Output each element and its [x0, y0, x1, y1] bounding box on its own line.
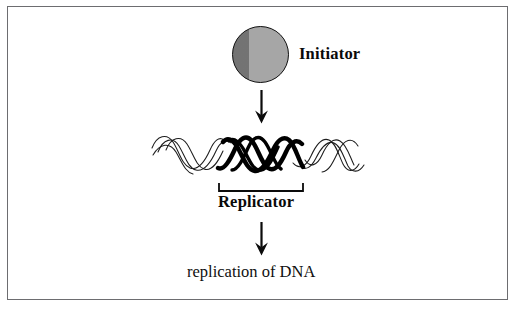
replicator-span-bracket-icon	[219, 183, 303, 191]
arrow-bottom-down-icon	[255, 222, 268, 256]
figure-root: Initiator Replicator replication of DNA	[0, 0, 517, 311]
diagram-vector-overlay	[0, 0, 517, 311]
dna-double-helix-icon	[152, 136, 364, 174]
arrow-top-down-icon	[255, 90, 268, 124]
